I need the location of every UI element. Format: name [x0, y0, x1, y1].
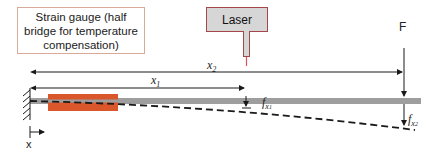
laser-label: Laser	[222, 13, 252, 27]
fixed-support-icon	[23, 88, 30, 120]
axis-label: x	[26, 138, 32, 150]
strain-gauge-label-box: Strain gauge (half bridge for temperatur…	[17, 7, 145, 54]
x1-label: x1	[151, 73, 160, 89]
laser-nozzle	[243, 31, 250, 57]
force-label: F	[399, 20, 406, 34]
fx2-label: fx2	[408, 112, 418, 128]
x2-label: x2	[207, 58, 216, 74]
x-axis-arrow	[30, 126, 44, 138]
fx1-label: fx1	[262, 95, 272, 111]
strain-gauge-label: Strain gauge (half bridge for temperatur…	[22, 10, 140, 52]
laser-box: Laser	[206, 7, 268, 32]
